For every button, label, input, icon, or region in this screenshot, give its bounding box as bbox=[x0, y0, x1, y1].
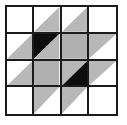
quilt-outer-border bbox=[5, 5, 118, 116]
quilt-block-figure bbox=[0, 0, 127, 125]
quilt-cell-r2-c0 bbox=[7, 61, 34, 88]
quilt-cell-shape bbox=[34, 61, 59, 86]
quilt-cell-r0-c0 bbox=[7, 7, 34, 34]
quilt-cell-r3-c0 bbox=[7, 87, 34, 114]
quilt-cell-r0-c2 bbox=[62, 7, 89, 34]
quilt-cell-r1-c2 bbox=[62, 34, 89, 61]
quilt-cell-r0-c3 bbox=[89, 7, 116, 34]
quilt-cell-shape bbox=[34, 7, 59, 32]
quilt-cell-r2-c2 bbox=[62, 61, 89, 88]
quilt-cell-r3-c3 bbox=[89, 87, 116, 114]
quilt-cell-r3-c1 bbox=[34, 87, 61, 114]
quilt-cell-r1-c0 bbox=[7, 34, 34, 61]
quilt-cell-shape bbox=[7, 61, 32, 86]
quilt-cell-r0-c1 bbox=[34, 7, 61, 34]
quilt-cell-shape bbox=[89, 34, 116, 59]
quilt-cell-r3-c2 bbox=[62, 87, 89, 114]
quilt-cell-r2-c1 bbox=[34, 61, 61, 88]
quilt-cell-shape bbox=[62, 7, 87, 32]
quilt-cell-r2-c3 bbox=[89, 61, 116, 88]
quilt-cell-r1-c1 bbox=[34, 34, 61, 61]
quilt-cell-r1-c3 bbox=[89, 34, 116, 61]
quilt-cell-shape bbox=[34, 34, 59, 59]
quilt-cell-shape bbox=[62, 87, 87, 114]
quilt-cell-shape bbox=[62, 61, 87, 86]
quilt-grid bbox=[7, 7, 116, 114]
quilt-cell-shape bbox=[34, 87, 59, 114]
quilt-cell-shape bbox=[62, 34, 87, 59]
quilt-cell-shape bbox=[89, 61, 116, 86]
quilt-cell-shape bbox=[7, 34, 32, 59]
